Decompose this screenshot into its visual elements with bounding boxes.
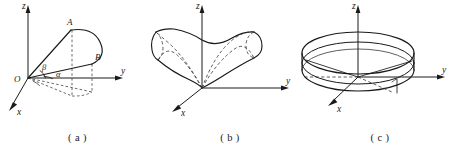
x-axis-b bbox=[172, 88, 202, 112]
z-axis-label-a: z bbox=[21, 1, 26, 11]
z-axis-a bbox=[26, 5, 31, 78]
point-label-B: B bbox=[95, 52, 101, 62]
y-axis-label-c: y bbox=[441, 65, 447, 75]
figure-container: z y x O A B β α ( a ) bbox=[0, 0, 460, 145]
saddle-surface-b bbox=[152, 29, 263, 88]
figure-panel-a: z y x O A B β α ( a ) bbox=[0, 0, 155, 145]
figure-panel-b: z y x ( b ) bbox=[150, 0, 310, 145]
xy-projection-a bbox=[28, 78, 92, 96]
panel-c-drawing: z y x bbox=[300, 0, 460, 118]
angle-label-beta: β bbox=[41, 62, 47, 72]
figure-panel-c: z y x ( c ) bbox=[300, 0, 460, 145]
point-label-A: A bbox=[66, 17, 73, 27]
x-axis-label-b: x bbox=[180, 108, 186, 118]
z-axis-label-c: z bbox=[351, 1, 356, 11]
panel-b-caption: ( b ) bbox=[150, 132, 310, 143]
origin-label-a: O bbox=[14, 74, 21, 84]
drop-lines-a bbox=[72, 30, 92, 96]
z-axis-c bbox=[356, 5, 361, 77]
panel-a-drawing: z y x O A B β α bbox=[0, 0, 155, 118]
teardrop-surface-a bbox=[28, 30, 102, 79]
z-axis-b bbox=[200, 5, 205, 88]
panel-a-caption: ( a ) bbox=[0, 132, 155, 143]
x-axis-label-a: x bbox=[16, 107, 22, 117]
y-axis-label-b: y bbox=[285, 76, 291, 86]
y-axis-a bbox=[28, 76, 123, 81]
x-axis-label-c: x bbox=[336, 104, 342, 114]
panel-b-drawing: z y x bbox=[150, 0, 310, 118]
angle-label-alpha: α bbox=[56, 69, 61, 79]
panel-c-caption: ( c ) bbox=[300, 132, 460, 143]
y-axis-b bbox=[202, 86, 289, 91]
z-axis-label-b: z bbox=[195, 1, 200, 11]
y-axis-label-a: y bbox=[120, 66, 126, 76]
y-axis-c bbox=[358, 75, 445, 80]
